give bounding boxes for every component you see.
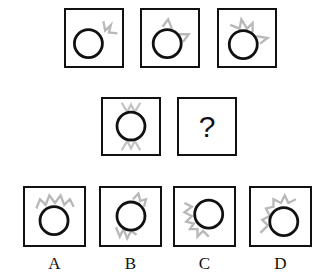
option-c[interactable]	[173, 186, 236, 247]
sequence-cell-4	[101, 97, 161, 156]
circle-with-spikes-icon	[251, 188, 310, 245]
sequence-cell-1	[64, 8, 124, 68]
circle-with-spikes-icon	[25, 188, 84, 245]
question-mark: ?	[179, 99, 235, 154]
option-a[interactable]	[23, 186, 86, 247]
option-b[interactable]	[99, 186, 162, 247]
option-d[interactable]	[249, 186, 312, 247]
option-a-label: A	[23, 254, 86, 273]
circle-with-spikes-icon	[175, 188, 234, 245]
sequence-cell-3	[217, 8, 277, 68]
unknown-cell: ?	[177, 97, 237, 156]
option-d-label: D	[249, 254, 312, 273]
circle-with-spikes-icon	[103, 99, 159, 154]
option-b-label: B	[99, 254, 162, 273]
circle-with-spikes-icon	[142, 10, 198, 66]
circle-with-spikes-icon	[101, 188, 160, 245]
option-c-label: C	[173, 254, 236, 273]
circle-with-spikes-icon	[66, 10, 122, 66]
circle-with-spikes-icon	[219, 10, 275, 66]
sequence-cell-2	[140, 8, 200, 68]
